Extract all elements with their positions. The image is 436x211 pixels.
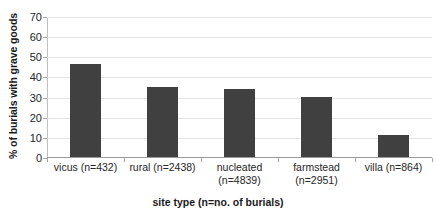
y-tick-label: 50 <box>18 52 42 63</box>
y-tick-mark <box>43 17 47 18</box>
y-tick-mark <box>43 118 47 119</box>
bar[interactable] <box>147 87 178 158</box>
bar[interactable] <box>70 64 101 157</box>
x-tick-label-line: villa (n=864) <box>355 161 432 174</box>
x-tick-label: rural (n=2438) <box>124 161 201 174</box>
x-tick-label-line: (n=4839) <box>201 174 278 187</box>
y-tick-label: 0 <box>18 153 42 164</box>
y-tick-mark <box>43 57 47 58</box>
bar[interactable] <box>301 97 332 157</box>
y-tick-label: 10 <box>18 132 42 143</box>
x-tick-label: villa (n=864) <box>355 161 432 174</box>
gridline <box>47 37 432 38</box>
x-tick-label-line: vicus (n=432) <box>47 161 124 174</box>
y-tick-mark <box>43 138 47 139</box>
y-axis-tick-labels: 706050403020100 <box>18 17 42 158</box>
y-tick-mark <box>43 37 47 38</box>
y-tick-label: 70 <box>18 12 42 23</box>
gridline <box>47 77 432 78</box>
y-tick-label: 20 <box>18 112 42 123</box>
x-tick-label-line: (n=2951) <box>278 174 355 187</box>
y-tick-mark <box>43 98 47 99</box>
x-tick-label-line: rural (n=2438) <box>124 161 201 174</box>
bar[interactable] <box>224 89 255 157</box>
y-tick-label: 40 <box>18 72 42 83</box>
x-tick-mark <box>432 158 433 162</box>
y-tick-mark <box>43 77 47 78</box>
x-tick-label-line: farmstead <box>278 161 355 174</box>
x-tick-label: farmstead(n=2951) <box>278 161 355 187</box>
x-axis-line <box>47 157 432 158</box>
bar-chart: % of burials with grave goods 7060504030… <box>0 0 436 211</box>
y-axis-line <box>47 17 48 158</box>
bar[interactable] <box>378 135 409 157</box>
x-tick-label: nucleated(n=4839) <box>201 161 278 187</box>
x-tick-label-line: nucleated <box>201 161 278 174</box>
y-tick-label: 60 <box>18 32 42 43</box>
x-axis-tick-labels: vicus (n=432)rural (n=2438)nucleated(n=4… <box>47 161 432 191</box>
y-tick-label: 30 <box>18 92 42 103</box>
x-tick-label: vicus (n=432) <box>47 161 124 174</box>
plot-area <box>47 17 432 158</box>
x-axis-title: site type (n=no. of burials) <box>0 196 436 208</box>
gridline <box>47 57 432 58</box>
gridline <box>47 17 432 18</box>
